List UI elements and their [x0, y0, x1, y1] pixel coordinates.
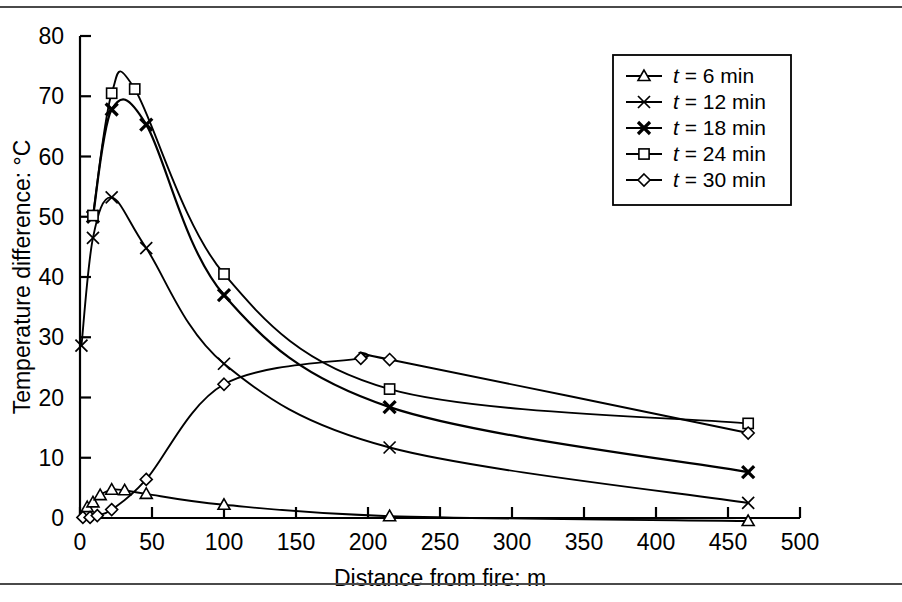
legend-marker-3 — [639, 149, 649, 159]
legend-value-0: = 6 min — [679, 64, 754, 87]
legend-value-1: = 12 min — [679, 90, 766, 113]
x-axis-tick-label: 300 — [493, 529, 531, 555]
series-curve-4 — [83, 353, 748, 518]
x-axis-tick-label: 0 — [74, 529, 87, 555]
x-axis-tick-label: 350 — [565, 529, 603, 555]
series-curve-0 — [87, 489, 748, 521]
top-rule — [0, 6, 902, 8]
series-3-marker — [130, 84, 140, 94]
series-3-marker — [219, 269, 229, 279]
y-axis-tick-label: 60 — [38, 144, 64, 170]
series-1-marker — [218, 358, 230, 370]
series-4-marker — [106, 504, 118, 516]
x-axis-tick-label: 400 — [637, 529, 675, 555]
x-axis-tick-label: 100 — [205, 529, 243, 555]
x-axis-tick-label: 50 — [139, 529, 165, 555]
legend-value-2: = 18 min — [679, 116, 766, 139]
series-1-marker — [140, 242, 152, 254]
series-1-marker — [384, 442, 396, 454]
x-axis-tick-label: 450 — [709, 529, 747, 555]
legend-label-3: t = 24 min — [673, 142, 766, 165]
series-3-marker — [385, 384, 395, 394]
legend-value-3: = 24 min — [679, 142, 766, 165]
x-axis-tick-label: 250 — [421, 529, 459, 555]
y-axis-tick-label: 0 — [51, 505, 64, 531]
legend-label-1: t = 12 min — [673, 90, 766, 113]
series-3-marker — [88, 210, 98, 220]
series-4-marker — [218, 378, 230, 390]
figure-container: 0102030405060708005010015020025030035040… — [0, 0, 902, 602]
x-axis-tick-label: 500 — [781, 529, 819, 555]
series-2-marker — [384, 401, 396, 413]
y-axis-tick-label: 80 — [38, 23, 64, 49]
legend-label-2: t = 18 min — [673, 116, 766, 139]
y-axis-tick-label: 70 — [38, 83, 64, 109]
legend-label-4: t = 30 min — [673, 168, 766, 191]
y-axis-tick-label: 40 — [38, 264, 64, 290]
chart-legend[interactable]: t = 6 mint = 12 mint = 18 mint = 24 mint… — [613, 55, 791, 205]
x-axis-title: Distance from fire: m — [334, 565, 546, 591]
y-axis-title: Temperature difference: °C — [9, 140, 35, 415]
legend-value-4: = 30 min — [679, 168, 766, 191]
x-axis-tick-label: 200 — [349, 529, 387, 555]
series-3-marker — [107, 88, 117, 98]
x-axis-tick-label: 150 — [277, 529, 315, 555]
series-0-marker — [94, 489, 106, 500]
bottom-rule — [0, 583, 902, 585]
y-axis-tick-label: 50 — [38, 204, 64, 230]
series-4-marker — [384, 354, 396, 366]
y-axis-tick-label: 30 — [38, 324, 64, 350]
y-axis-tick-label: 10 — [38, 445, 64, 471]
line-chart: 0102030405060708005010015020025030035040… — [0, 0, 902, 602]
series-2-marker — [218, 289, 230, 301]
y-axis-tick-label: 20 — [38, 385, 64, 411]
legend-label-0: t = 6 min — [673, 64, 754, 87]
